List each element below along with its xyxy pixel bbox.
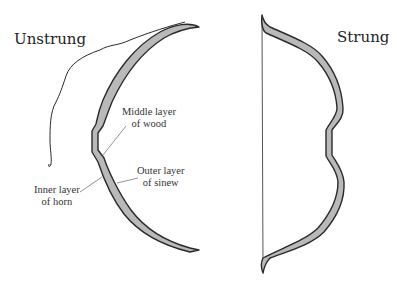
- label-outer-layer-sinew: Outer layer of sinew: [137, 165, 185, 189]
- label-outer-line1: Outer layer: [137, 165, 185, 177]
- label-inner-line2: of horn: [34, 196, 80, 208]
- strung-bow-limb: [262, 15, 345, 273]
- label-outer-line2: of sinew: [137, 177, 185, 189]
- panel-title-unstrung: Unstrung: [14, 30, 86, 48]
- label-middle-line2: of wood: [122, 118, 176, 130]
- bow-diagram: Unstrung Strung Middle layer of wood Out…: [0, 0, 397, 285]
- leader-line-inner: [80, 177, 102, 192]
- leader-line-outer: [117, 178, 138, 183]
- label-middle-layer-wood: Middle layer of wood: [122, 106, 176, 130]
- label-inner-layer-horn: Inner layer of horn: [34, 184, 80, 208]
- unstrung-bow-limb: [92, 24, 199, 252]
- panel-title-strung: Strung: [337, 28, 389, 46]
- leader-line-middle: [103, 126, 126, 155]
- label-middle-line1: Middle layer: [122, 106, 176, 118]
- strung-bowstring: [262, 20, 263, 270]
- label-inner-line1: Inner layer: [34, 184, 80, 196]
